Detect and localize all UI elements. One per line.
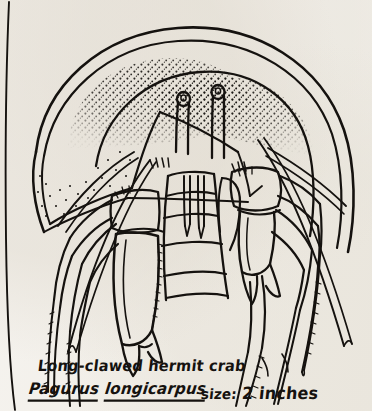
- walking-leg-right-2: [272, 210, 312, 404]
- walking-leg-right-1: [278, 176, 322, 376]
- walking-leg-right-3: [236, 276, 265, 406]
- snail-shell: [30, 27, 354, 252]
- scanned-page: Long-clawed hermit crab Paguruslongicarp…: [0, 0, 372, 411]
- large-claw: [111, 190, 165, 376]
- page-edge-line: [6, 2, 15, 410]
- shell-stipple-right: [140, 60, 340, 180]
- hermit-crab-illustration: [0, 0, 372, 411]
